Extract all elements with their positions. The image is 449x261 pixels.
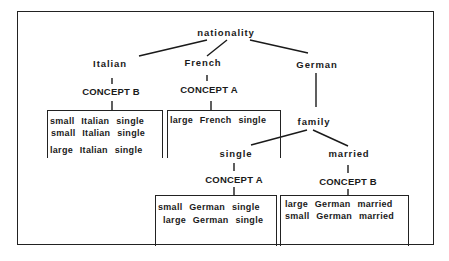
node-married: married (328, 148, 369, 159)
node-italian-concept: CONCEPT B (82, 86, 140, 97)
node-german: German (296, 59, 337, 70)
instance-row: large German single (163, 215, 263, 226)
instance-row: large German married (285, 199, 393, 210)
node-italian: Italian (93, 58, 127, 69)
edge-nationality-italian (139, 40, 207, 56)
node-nationality: nationality (197, 27, 254, 38)
decision-tree-diagram: nationality Italian French German CONCEP… (0, 0, 449, 261)
edge-nationality-french (207, 40, 227, 56)
instance-row: small Italian single (50, 116, 144, 127)
edge-family-married (313, 130, 348, 146)
edge-nationality-german (250, 40, 308, 53)
node-married-concept: CONCEPT B (319, 176, 377, 187)
node-french: French (184, 57, 221, 68)
instance-row: large French single (170, 115, 266, 126)
instance-row: small German married (285, 211, 394, 222)
instance-row: large Italian single (50, 145, 143, 156)
instance-row: small German single (158, 202, 260, 213)
node-family: family (298, 116, 331, 127)
instance-row: small Italian single (51, 128, 145, 139)
node-french-concept: CONCEPT A (180, 84, 237, 95)
node-single-concept: CONCEPT A (205, 174, 262, 185)
